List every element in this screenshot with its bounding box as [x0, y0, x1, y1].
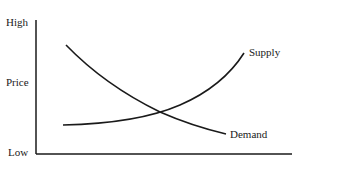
- demand-label: Demand: [230, 128, 267, 140]
- y-axis-high-label: High: [6, 16, 28, 28]
- supply-curve: [63, 53, 244, 125]
- supply-label: Supply: [249, 46, 280, 58]
- demand-curve: [66, 45, 226, 134]
- y-axis-price-label: Price: [6, 76, 29, 88]
- y-axis-low-label: Low: [8, 146, 28, 158]
- supply-demand-diagram: [0, 0, 344, 172]
